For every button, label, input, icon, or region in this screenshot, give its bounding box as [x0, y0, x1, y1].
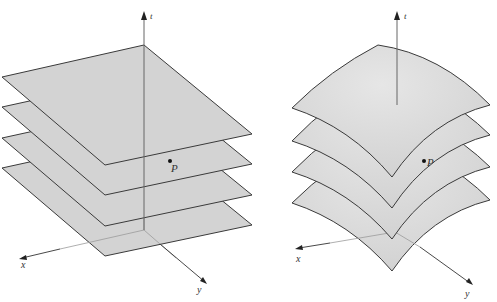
y-axis-arrow-icon: [466, 278, 473, 285]
right-figure: t x y P: [292, 11, 490, 299]
diagram-canvas: t x y P t x y: [0, 0, 497, 302]
point-p-label: P: [170, 162, 178, 174]
t-axis-label: t: [404, 11, 407, 21]
point-p-label: P: [426, 156, 434, 168]
y-axis-arrow-icon: [200, 277, 207, 284]
x-axis-label: x: [295, 253, 301, 264]
t-axis-label: t: [150, 11, 153, 21]
left-figure: t x y P: [2, 11, 252, 295]
x-axis-label: x: [20, 259, 26, 270]
t-axis-arrow-icon: [394, 11, 400, 20]
x-axis: [299, 243, 330, 248]
x-axis-arrow-icon: [295, 245, 303, 250]
x-axis: [22, 249, 60, 258]
y-axis-label: y: [196, 284, 202, 295]
y-axis-label: y: [464, 288, 470, 299]
t-axis-arrow-icon: [141, 11, 147, 20]
point-p: [422, 159, 426, 163]
y-axis: [420, 247, 470, 283]
y-axis: [160, 244, 205, 282]
